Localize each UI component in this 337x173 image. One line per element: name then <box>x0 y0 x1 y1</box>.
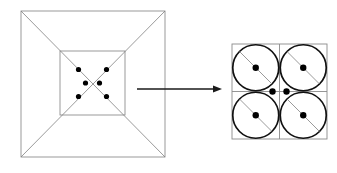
canvas-background <box>0 0 337 173</box>
upper-right-dot <box>104 67 109 72</box>
cell-bottom-right-center-dot <box>300 112 306 118</box>
center-dot-right <box>283 88 289 94</box>
lower-left-dot <box>76 94 81 99</box>
center-right-dot <box>97 80 102 85</box>
upper-left-dot <box>76 67 81 72</box>
cell-top-right-center-dot <box>300 65 306 71</box>
center-dot-left <box>269 88 275 94</box>
lower-right-dot <box>104 94 109 99</box>
cell-top-left-center-dot <box>253 65 259 71</box>
diagram-root <box>0 0 337 173</box>
center-left-dot <box>83 80 88 85</box>
cell-bottom-left-center-dot <box>253 112 259 118</box>
geometric-diagram <box>0 0 337 173</box>
